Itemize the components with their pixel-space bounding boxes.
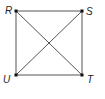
square-diagram: R S T U <box>0 0 105 99</box>
label-U: U <box>3 74 11 85</box>
point-R <box>15 10 18 13</box>
point-U <box>15 74 18 77</box>
label-T: T <box>87 74 94 85</box>
label-S: S <box>86 6 93 17</box>
point-T <box>81 74 84 77</box>
segments <box>16 11 82 75</box>
point-S <box>81 10 84 13</box>
label-R: R <box>5 5 12 16</box>
